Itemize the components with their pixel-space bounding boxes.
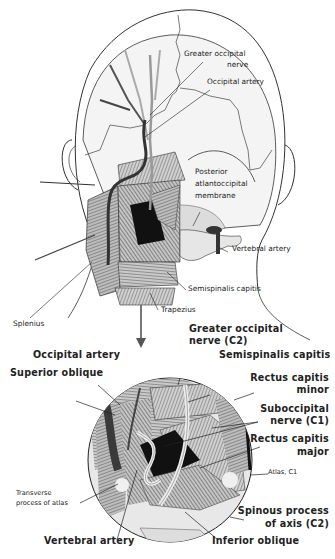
label-rectus-capitis-major-2: major [297, 446, 329, 457]
label-inferior-oblique: Inferior oblique [212, 535, 299, 546]
label-superior-oblique: Superior oblique [10, 367, 103, 378]
label-spinous-process-2: of axis (C2) [265, 518, 329, 529]
label-spinous-process: Spinous process [238, 505, 329, 516]
label-greater-occipital-nerve: Greater occipital [184, 50, 245, 59]
label-greater-occipital-nerve-c2-2: nerve (C2) [189, 335, 248, 346]
label-occipital-artery-lower: Occipital artery [33, 349, 120, 360]
label-posterior-aom-3: membrane [195, 192, 235, 201]
detail-circle [88, 378, 252, 545]
label-transverse-process-2: process of atlas [16, 500, 68, 508]
label-vertebral-artery-upper: Vertebral artery [232, 245, 291, 254]
label-posterior-aom: Posterior [195, 168, 228, 177]
label-suboccipital-nerve: Suboccipital [260, 403, 329, 414]
label-splenius: Splenius [13, 320, 44, 329]
label-greater-occipital-nerve-2: nerve [227, 61, 248, 70]
label-semispinalis-upper: Semispinalis capitis [188, 285, 261, 294]
label-atlas-c1: Atlas, C1 [268, 469, 297, 477]
anatomy-figure: Greater occipital nerve Occipital artery… [0, 0, 335, 559]
label-transverse-process: Transverse [16, 490, 52, 498]
label-rectus-capitis-minor-2: minor [297, 384, 329, 395]
label-occipital-artery: Occipital artery [207, 78, 264, 87]
label-suboccipital-nerve-2: nerve (C1) [270, 415, 329, 426]
label-vertebral-artery-lower: Vertebral artery [44, 535, 134, 546]
label-trapezius: Trapezius [161, 306, 196, 315]
label-posterior-aom-2: atlantoccipital [195, 180, 248, 189]
label-semispinalis-lower: Semispinalis capitis [219, 349, 330, 360]
label-rectus-capitis-minor: Rectus capitis [250, 372, 329, 383]
label-greater-occipital-nerve-c2: Greater occipital [189, 323, 283, 334]
label-rectus-capitis-major: Rectus capitis [250, 433, 329, 444]
zoom-arrow [136, 305, 146, 348]
